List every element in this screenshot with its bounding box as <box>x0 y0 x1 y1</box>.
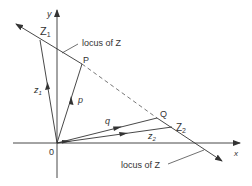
locus-line-upper <box>16 24 82 64</box>
vector-p-label: p <box>77 95 83 105</box>
x-axis-label: x <box>233 149 239 158</box>
vector-q-arrowhead <box>113 127 122 132</box>
locus-bottom-leader <box>168 150 204 164</box>
vector-z2-arrowhead <box>119 132 128 137</box>
point-q-label: Q <box>160 109 167 119</box>
vector-q-label: q <box>105 116 110 126</box>
vector-locus-diagram: y x 0 Z1 P Q Z2 z1 p q z2 locus of Z loc… <box>0 0 252 186</box>
y-axis-label: y <box>46 9 52 19</box>
locus-dashed-segment <box>82 64 157 118</box>
diagram-svg: y x 0 Z1 P Q Z2 z1 p q z2 locus of Z loc… <box>0 0 252 186</box>
vector-z2-label: z2 <box>147 131 157 142</box>
vector-z1-label: z1 <box>33 85 42 96</box>
locus-top-leader <box>62 44 78 53</box>
locus-line-lower <box>157 118 222 161</box>
point-z1-label: Z1 <box>40 25 51 38</box>
vector-p-arrowhead <box>69 96 74 105</box>
point-z2-label: Z2 <box>176 122 186 134</box>
origin-label: 0 <box>49 147 54 157</box>
point-p-label: P <box>83 55 89 65</box>
locus-top-label: locus of Z <box>82 38 122 48</box>
vector-z1-arrowhead <box>45 82 50 90</box>
vector-z1 <box>40 40 57 143</box>
locus-bottom-label: locus of Z <box>121 160 161 170</box>
